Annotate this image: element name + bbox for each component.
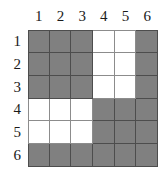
row-header-5: 5 bbox=[0, 121, 25, 144]
grid-cell bbox=[115, 144, 137, 167]
grid-cell bbox=[28, 144, 50, 167]
grid-cell bbox=[136, 30, 158, 53]
row-header-6: 6 bbox=[0, 144, 25, 167]
grid-cell bbox=[136, 121, 158, 144]
grid-cell bbox=[28, 121, 50, 144]
grid-cell bbox=[115, 76, 137, 99]
grid-cell bbox=[136, 76, 158, 99]
grid-cell bbox=[71, 53, 93, 76]
grid-cell bbox=[71, 121, 93, 144]
grid-cell bbox=[50, 121, 72, 144]
row-header-3: 3 bbox=[0, 76, 25, 99]
grid-cell bbox=[93, 30, 115, 53]
grid-cell bbox=[50, 76, 72, 99]
grid-cell bbox=[50, 53, 72, 76]
row-header-1: 1 bbox=[0, 30, 25, 53]
grid-cell bbox=[136, 53, 158, 76]
grid-cell bbox=[28, 99, 50, 122]
grid-cell bbox=[93, 99, 115, 122]
grid-cell bbox=[93, 144, 115, 167]
grid-cell bbox=[28, 53, 50, 76]
grid-cell bbox=[71, 76, 93, 99]
grid-cell bbox=[50, 30, 72, 53]
column-header-3: 3 bbox=[71, 4, 93, 28]
grid-cell bbox=[115, 53, 137, 76]
matrix-figure: 123456 123456 bbox=[0, 0, 167, 176]
grid-cell bbox=[28, 76, 50, 99]
grid-cell bbox=[136, 99, 158, 122]
grid-cell bbox=[93, 121, 115, 144]
row-header-2: 2 bbox=[0, 53, 25, 76]
grid-cell bbox=[50, 144, 72, 167]
column-header-5: 5 bbox=[115, 4, 137, 28]
grid-cell bbox=[115, 121, 137, 144]
grid-cell bbox=[93, 76, 115, 99]
column-header-4: 4 bbox=[93, 4, 115, 28]
grid-cell bbox=[115, 99, 137, 122]
grid-cell bbox=[71, 30, 93, 53]
grid-cell bbox=[93, 53, 115, 76]
column-header-row: 123456 bbox=[28, 4, 158, 28]
row-header-4: 4 bbox=[0, 98, 25, 121]
row-header-column: 123456 bbox=[0, 30, 25, 167]
grid-cell bbox=[136, 144, 158, 167]
column-header-6: 6 bbox=[136, 4, 158, 28]
grid-cell bbox=[115, 30, 137, 53]
grid-cell bbox=[50, 99, 72, 122]
grid-cell bbox=[71, 99, 93, 122]
grid-body bbox=[28, 30, 158, 167]
grid-cell bbox=[71, 144, 93, 167]
column-header-2: 2 bbox=[50, 4, 72, 28]
grid-cell bbox=[28, 30, 50, 53]
column-header-1: 1 bbox=[28, 4, 50, 28]
